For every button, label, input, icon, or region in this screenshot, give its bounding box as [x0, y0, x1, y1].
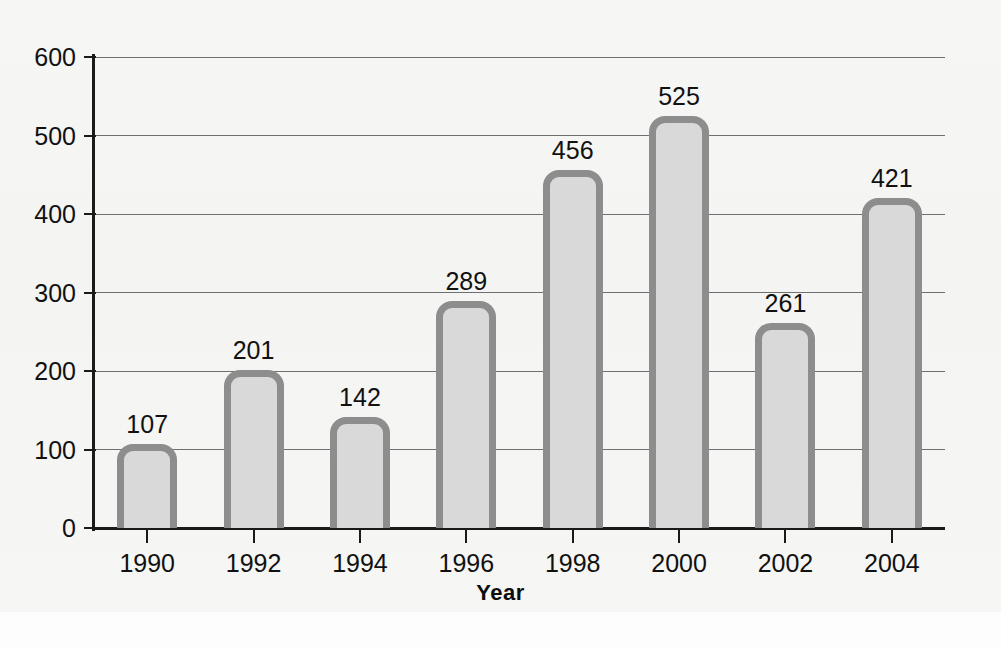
bar-value-label: 107: [126, 410, 168, 439]
x-axis-tick: [784, 530, 786, 543]
y-axis-label: 400: [0, 200, 76, 229]
gridline: [94, 449, 945, 450]
x-axis-tick: [146, 530, 148, 543]
x-axis-tick: [891, 530, 893, 543]
y-axis-label: 500: [0, 121, 76, 150]
bar: [330, 417, 390, 528]
x-axis-label: 1996: [439, 549, 495, 578]
x-axis-title: Year: [0, 580, 1001, 606]
bar: [436, 301, 496, 528]
chart-page: 0100200300400500600 10720114228945652526…: [0, 0, 1001, 648]
x-axis-label: 2000: [651, 549, 707, 578]
y-axis-label: 100: [0, 435, 76, 464]
x-axis-label: 2004: [864, 549, 920, 578]
x-axis-label: 1998: [545, 549, 601, 578]
bar: [649, 116, 709, 528]
bar: [224, 370, 284, 528]
x-axis-label: 2002: [758, 549, 814, 578]
x-axis-tick: [572, 530, 574, 543]
y-axis-label: 200: [0, 357, 76, 386]
y-axis-line: [92, 54, 95, 531]
gridline: [94, 371, 945, 372]
gridline: [94, 214, 945, 215]
bar-value-label: 456: [552, 136, 594, 165]
x-axis-label: 1992: [226, 549, 282, 578]
x-axis-line: [94, 527, 945, 530]
x-axis-label: 1990: [119, 549, 175, 578]
bar: [543, 170, 603, 528]
bar: [117, 444, 177, 528]
gridline: [94, 135, 945, 136]
bar-value-label: 261: [765, 289, 807, 318]
bar: [755, 323, 815, 528]
bar-chart-plot-area: 0100200300400500600 10720114228945652526…: [0, 0, 1001, 648]
gridline: [94, 292, 945, 293]
y-axis-label: 0: [0, 514, 76, 543]
x-axis-label: 1994: [332, 549, 388, 578]
bar-value-label: 142: [339, 383, 381, 412]
bar: [862, 198, 922, 528]
x-axis-tick: [359, 530, 361, 543]
x-axis-tick: [465, 530, 467, 543]
page-bottom-margin: [0, 612, 1001, 648]
y-axis-label: 300: [0, 278, 76, 307]
bar-value-label: 201: [233, 336, 275, 365]
x-axis-tick: [678, 530, 680, 543]
gridline: [94, 57, 945, 58]
x-axis-tick: [253, 530, 255, 543]
bar-value-label: 525: [658, 82, 700, 111]
y-axis-label: 600: [0, 43, 76, 72]
bar-value-label: 289: [445, 267, 487, 296]
bar-value-label: 421: [871, 164, 913, 193]
